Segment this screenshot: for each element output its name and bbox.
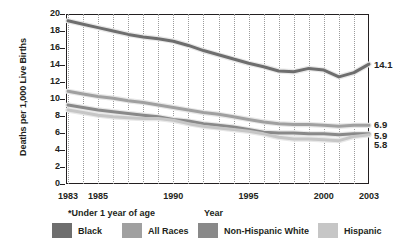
y-tick-mark bbox=[60, 99, 65, 100]
y-tick-label: 4 bbox=[38, 145, 60, 154]
y-tick-mark bbox=[60, 184, 65, 185]
series-lines bbox=[68, 14, 369, 184]
y-tick-mark bbox=[60, 48, 65, 49]
x-axis-title: Year bbox=[204, 208, 223, 218]
series-halo bbox=[68, 21, 369, 77]
x-tick-label: 1995 bbox=[239, 191, 259, 201]
chart-legend: BlackAll RacesNon-Hispanic WhiteHispanic bbox=[0, 222, 405, 244]
x-tick-label: 1983 bbox=[58, 191, 78, 201]
y-tick-mark bbox=[60, 82, 65, 83]
legend-label: Hispanic bbox=[344, 226, 382, 236]
infant-mortality-chart: Deaths per 1,000 Live Births 20181614121… bbox=[0, 0, 405, 248]
x-tick-label: 2003 bbox=[359, 191, 379, 201]
x-tick-label: 2000 bbox=[314, 191, 334, 201]
legend-item[interactable]: Non-Hispanic White bbox=[198, 223, 309, 238]
legend-item[interactable]: Hispanic bbox=[318, 223, 382, 238]
y-tick-label: 0 bbox=[38, 179, 60, 188]
legend-label: Non-Hispanic White bbox=[224, 226, 309, 236]
y-tick-label: 14 bbox=[38, 60, 60, 69]
y-tick-label: 12 bbox=[38, 77, 60, 86]
legend-swatch-icon bbox=[198, 223, 218, 238]
legend-label: Black bbox=[78, 226, 102, 236]
legend-item[interactable]: Black bbox=[52, 223, 102, 238]
series-halo bbox=[68, 91, 369, 126]
legend-label: All Races bbox=[148, 226, 189, 236]
legend-swatch-icon bbox=[122, 223, 142, 238]
y-tick-label: 10 bbox=[38, 94, 60, 103]
legend-swatch-icon bbox=[318, 223, 338, 238]
y-tick-mark bbox=[60, 14, 65, 15]
plot-area bbox=[68, 14, 369, 184]
axis-left bbox=[66, 14, 67, 184]
y-tick-mark bbox=[60, 150, 65, 151]
y-tick-mark bbox=[60, 116, 65, 117]
end-value-label: 14.1 bbox=[374, 59, 393, 70]
y-axis-title: Deaths per 1,000 Live Births bbox=[18, 12, 28, 182]
y-tick-label: 20 bbox=[38, 9, 60, 18]
x-tick-label: 1985 bbox=[88, 191, 108, 201]
y-tick-mark bbox=[60, 133, 65, 134]
end-value-label: 6.9 bbox=[374, 119, 387, 130]
y-tick-mark bbox=[60, 167, 65, 168]
y-tick-mark bbox=[60, 65, 65, 66]
end-value-label: 5.8 bbox=[374, 139, 387, 150]
y-tick-label: 16 bbox=[38, 43, 60, 52]
y-tick-label: 2 bbox=[38, 162, 60, 171]
y-tick-mark bbox=[60, 31, 65, 32]
x-tick-label: 1990 bbox=[163, 191, 183, 201]
y-tick-label: 6 bbox=[38, 128, 60, 137]
y-tick-label: 8 bbox=[38, 111, 60, 120]
chart-footnote: *Under 1 year of age bbox=[68, 208, 155, 218]
legend-swatch-icon bbox=[52, 223, 72, 238]
y-tick-label: 18 bbox=[38, 26, 60, 35]
legend-item[interactable]: All Races bbox=[122, 223, 189, 238]
